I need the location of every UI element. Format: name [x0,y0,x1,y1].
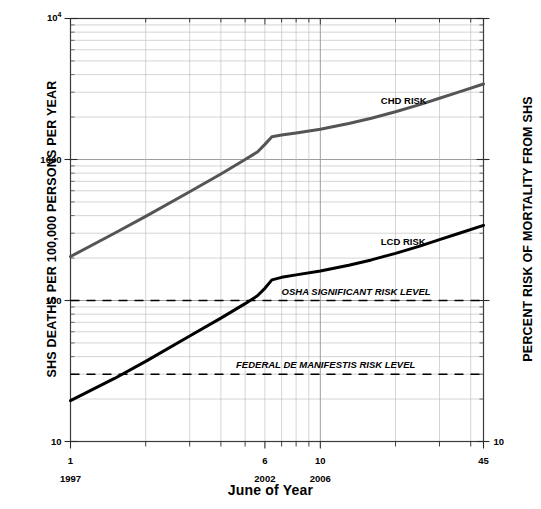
y-left-tick-1000: 1000 [14,154,62,165]
chart-figure: SHS DEATHS PER 100,000 PERSONS PER YEAR … [0,0,541,509]
axis-frame [71,19,484,442]
x-sublabel-2006: 2006 [295,473,345,484]
y-left-tick-10: 10 [14,436,62,447]
y-left-tick-10000: 104 [14,11,62,23]
osha-risk-level-label: OSHA SIGNIFICANT RISK LEVEL [282,286,431,297]
x-tick-6: 6 [240,455,290,466]
x-tick-45: 45 [459,455,509,466]
gridlines [71,19,484,442]
federal-risk-level-label: FEDERAL DE MANIFESTIS RISK LEVEL [236,359,415,370]
x-tick-10: 10 [295,455,345,466]
x-tick-1: 1 [46,455,96,466]
x-sublabel-1997: 1997 [46,473,96,484]
lcd-risk-label: LCD RISK [381,236,426,247]
y-right-tick-10: 10 [494,436,541,447]
x-sublabel-2002: 2002 [240,473,290,484]
chd-risk-label: CHD RISK [381,95,427,106]
y-left-tick-100: 100 [14,295,62,306]
plot-area [0,0,541,509]
y-axis-left-title: SHS DEATHS PER 100,000 PERSONS PER YEAR [45,19,59,439]
x-axis-title: June of Year [0,482,541,498]
series-chd-risk [71,84,484,257]
y-axis-right-title: PERCENT RISK OF MORTALITY FROM SHS [521,19,535,439]
